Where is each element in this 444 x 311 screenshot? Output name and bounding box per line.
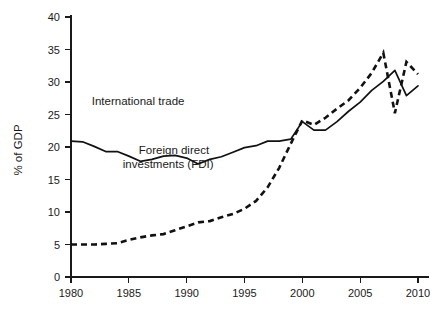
y-tick-label: 15 — [48, 174, 60, 186]
series-annotations: International tradeForeign directinvestm… — [92, 95, 214, 171]
y-axis-ticks: 0510152025303540 — [48, 11, 71, 283]
line-chart: 0510152025303540 19801985199019952000200… — [0, 0, 444, 311]
x-tick-label: 2000 — [290, 287, 314, 299]
x-tick-label: 1985 — [117, 287, 141, 299]
y-tick-label: 25 — [48, 109, 60, 121]
y-tick-label: 35 — [48, 44, 60, 56]
y-tick-label: 10 — [48, 206, 60, 218]
series-line-fdi — [71, 53, 418, 245]
x-tick-label: 1995 — [232, 287, 256, 299]
chart-container: 0510152025303540 19801985199019952000200… — [0, 0, 444, 311]
x-axis-ticks: 1980198519901995200020052010 — [59, 277, 430, 299]
y-axis-title: % of GDP — [12, 124, 24, 175]
x-tick-label: 2010 — [406, 287, 430, 299]
x-tick-label: 1990 — [174, 287, 198, 299]
series-annotation-0: International trade — [92, 95, 185, 107]
x-tick-label: 1980 — [59, 287, 83, 299]
y-tick-label: 40 — [48, 11, 60, 23]
series-annotation-2: investments (FDI) — [123, 158, 214, 170]
y-tick-label: 0 — [54, 271, 60, 283]
series-annotation-1: Foreign direct — [139, 144, 210, 156]
x-tick-label: 2005 — [348, 287, 372, 299]
y-tick-label: 30 — [48, 76, 60, 88]
series-line-international-trade — [71, 70, 418, 164]
y-tick-label: 20 — [48, 141, 60, 153]
data-series-group — [71, 53, 418, 245]
y-tick-label: 5 — [54, 239, 60, 251]
